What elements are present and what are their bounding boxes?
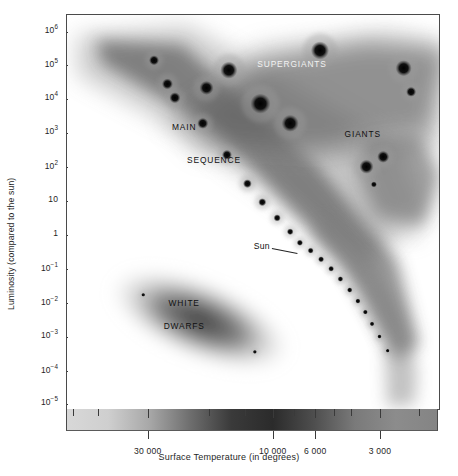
star-marker bbox=[297, 240, 303, 246]
star-marker bbox=[328, 266, 334, 272]
star-marker bbox=[355, 298, 360, 303]
star-marker bbox=[363, 310, 368, 315]
x-axis-tick bbox=[334, 409, 335, 416]
y-axis-tick bbox=[66, 99, 68, 100]
star-marker bbox=[162, 78, 173, 89]
star-marker bbox=[149, 55, 159, 65]
x-axis-tick bbox=[98, 409, 99, 416]
y-axis-tick bbox=[66, 133, 68, 134]
x-axis-tick bbox=[294, 409, 295, 416]
x-axis-tick-labels: 30 00010 0006 0003 000 bbox=[66, 436, 438, 450]
y-axis-tick-label: 105 bbox=[20, 59, 58, 69]
x-axis-tick bbox=[315, 409, 316, 418]
x-axis-tick bbox=[148, 409, 149, 418]
y-axis-tick-label: 102 bbox=[20, 161, 58, 171]
y-axis-tick-label: 10−2 bbox=[20, 297, 58, 307]
x-axis-tick bbox=[380, 409, 381, 418]
y-axis-tick-label: 1 bbox=[20, 228, 58, 238]
star-marker bbox=[371, 181, 377, 187]
star-marker bbox=[274, 214, 281, 221]
star-marker bbox=[169, 92, 180, 103]
star-marker bbox=[386, 349, 390, 353]
star-marker bbox=[406, 87, 416, 97]
y-axis-tick bbox=[66, 371, 68, 372]
star-marker bbox=[377, 151, 389, 163]
temperature-gradient-bar bbox=[66, 409, 438, 431]
star-marker bbox=[377, 334, 381, 338]
star-marker bbox=[222, 150, 232, 160]
y-axis-tick bbox=[66, 303, 68, 304]
star-marker bbox=[243, 179, 252, 188]
star-marker bbox=[338, 276, 344, 282]
star-marker bbox=[253, 350, 256, 353]
y-axis-tick-label: 10 bbox=[20, 194, 58, 204]
star-distribution-canvas bbox=[67, 15, 439, 409]
star-marker bbox=[250, 94, 270, 114]
y-axis-tick bbox=[66, 269, 68, 270]
x-axis-tick bbox=[73, 409, 74, 416]
x-axis-tick bbox=[419, 409, 420, 416]
y-axis-tick bbox=[66, 404, 68, 405]
y-axis-tick-label: 10−3 bbox=[20, 330, 58, 340]
star-marker bbox=[396, 60, 412, 76]
y-axis-tick-label: 104 bbox=[20, 92, 58, 102]
x-axis-tick bbox=[245, 409, 246, 416]
star-marker bbox=[359, 160, 373, 174]
star-marker bbox=[308, 248, 314, 254]
hr-diagram: Luminosity (compared to the sun) 1061051… bbox=[0, 0, 458, 476]
y-axis-tick bbox=[66, 32, 68, 33]
white-dwarfs-region bbox=[98, 249, 303, 391]
star-marker bbox=[370, 321, 375, 326]
y-axis-tick-label: 10−4 bbox=[20, 365, 58, 375]
y-axis-tick-label: 106 bbox=[20, 25, 58, 35]
y-axis-tick bbox=[66, 337, 68, 338]
star-marker bbox=[318, 256, 324, 262]
y-axis-tick-label: 10−1 bbox=[20, 263, 58, 273]
x-axis-tick bbox=[351, 409, 352, 416]
y-axis-tick bbox=[66, 65, 68, 66]
y-axis-tick bbox=[66, 201, 68, 202]
star-marker bbox=[258, 198, 266, 206]
sun-label: Sun bbox=[254, 241, 270, 251]
y-axis-tick bbox=[66, 167, 68, 168]
y-axis-tick bbox=[66, 235, 68, 236]
y-axis-title: Luminosity (compared to the sun) bbox=[6, 294, 16, 310]
star-marker bbox=[200, 81, 214, 95]
star-marker bbox=[287, 228, 294, 235]
x-axis-tick bbox=[273, 409, 274, 418]
y-axis-tick-label: 10−5 bbox=[20, 397, 58, 407]
y-axis-tick-label: 103 bbox=[20, 126, 58, 136]
star-marker bbox=[197, 118, 208, 129]
star-marker bbox=[220, 62, 237, 79]
star-marker bbox=[311, 41, 329, 59]
star-marker bbox=[347, 287, 352, 292]
x-axis-tick bbox=[209, 409, 210, 416]
plot-area: SUPERGIANTSGIANTSMAINSEQUENCEWHITEDWARFS… bbox=[66, 14, 440, 410]
star-marker bbox=[142, 293, 145, 296]
star-marker bbox=[282, 115, 299, 132]
x-axis-title: Surface Temperature (in degrees) bbox=[0, 452, 458, 462]
